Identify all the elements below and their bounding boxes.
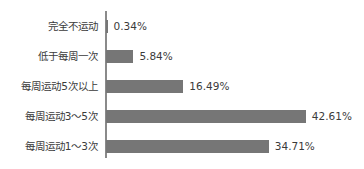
category-label: 低于每周一次	[0, 41, 98, 71]
bar-value-label: 5.84%	[139, 41, 172, 71]
bar-value-label: 0.34%	[114, 11, 147, 41]
category-label: 每周运动3～5次	[0, 101, 98, 131]
chart-row: 每周运动5次以上 16.49%	[0, 71, 364, 101]
chart-row: 完全不运动 0.34%	[0, 11, 364, 41]
bar	[106, 20, 108, 33]
bar-value-label: 34.71%	[275, 131, 315, 161]
bar	[106, 140, 269, 153]
bar-chart: 完全不运动 0.34% 低于每周一次 5.84% 每周运动5次以上 16.49%…	[0, 0, 364, 169]
chart-row: 每周运动1～3次 34.71%	[0, 131, 364, 161]
category-label: 每周运动5次以上	[0, 71, 98, 101]
category-label: 每周运动1～3次	[0, 131, 98, 161]
chart-row: 低于每周一次 5.84%	[0, 41, 364, 71]
bar	[106, 110, 306, 123]
chart-row: 每周运动3～5次 42.61%	[0, 101, 364, 131]
category-label: 完全不运动	[0, 11, 98, 41]
bar-value-label: 42.61%	[312, 101, 352, 131]
bar-value-label: 16.49%	[189, 71, 229, 101]
bar	[106, 80, 183, 93]
bar	[106, 50, 133, 63]
